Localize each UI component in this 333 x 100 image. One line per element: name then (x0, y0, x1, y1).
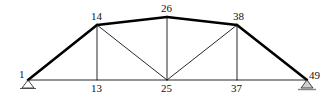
roller-support-icon (298, 80, 316, 90)
member-14-26 (97, 17, 167, 25)
node-label-1: 1 (19, 68, 25, 80)
member-38-49 (237, 25, 307, 80)
node-label-26: 26 (161, 2, 173, 14)
node-label-25: 25 (161, 82, 173, 94)
member-14-25 (97, 25, 167, 80)
truss-diagram: 113253749142638 (0, 0, 333, 100)
node-label-38: 38 (233, 10, 245, 22)
truss-members (28, 17, 307, 80)
member-26-38 (167, 17, 237, 25)
node-label-14: 14 (91, 10, 103, 22)
node-label-37: 37 (231, 82, 243, 94)
member-1-14 (28, 25, 97, 80)
member-38-25 (167, 25, 237, 80)
node-label-13: 13 (91, 82, 103, 94)
node-label-49: 49 (309, 69, 321, 81)
